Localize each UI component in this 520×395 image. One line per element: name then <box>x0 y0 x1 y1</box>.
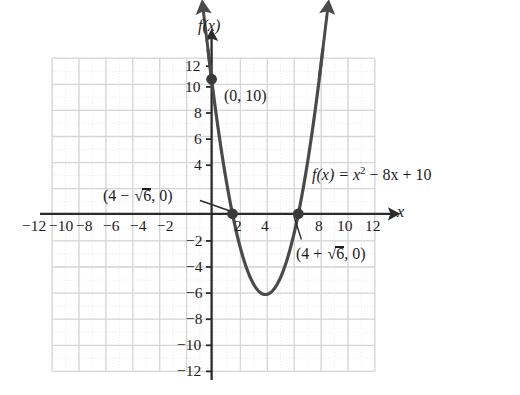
y-tick-8: 8 <box>194 105 202 121</box>
y-tick-6: 6 <box>194 131 202 147</box>
equation-prefix: f(x) = x <box>312 166 360 183</box>
x-tick-neg10: −10 <box>49 218 73 234</box>
label-right-root-pre: (4 + <box>296 245 326 262</box>
y-tick-4: 4 <box>194 157 202 173</box>
equation-label: f(x) = x2 − 8x + 10 <box>312 167 432 183</box>
x-tick-neg12: −12 <box>22 218 46 234</box>
graph-figure: f(x) x 12 10 8 6 4 −2 −4 −6 −8 −10 −12 −… <box>0 0 520 395</box>
label-right-root-post: , 0) <box>344 245 365 262</box>
parabola-right-arrow <box>320 8 328 76</box>
y-tick-neg10: −10 <box>177 337 201 353</box>
x-tick-8: 8 <box>315 218 323 234</box>
x-tick-4: 4 <box>261 218 269 234</box>
x-tick-neg8: −8 <box>76 218 93 234</box>
label-left-root-pre: (4 − <box>103 187 133 204</box>
x-tick-neg6: −6 <box>103 218 120 234</box>
label-right-root-radicand: 6 <box>336 245 344 262</box>
x-tick-10: 10 <box>337 218 353 234</box>
x-tick-neg2: −2 <box>157 218 174 234</box>
coordinate-plane-svg <box>0 0 520 395</box>
x-tick-2: 2 <box>234 218 242 234</box>
label-left-root: (4 − √6, 0) <box>103 188 173 204</box>
sqrt-icon-right: √6 <box>326 246 344 262</box>
label-y-intercept: (0, 10) <box>224 88 267 104</box>
y-tick-12: 12 <box>185 58 201 74</box>
label-left-root-radicand: 6 <box>143 187 151 204</box>
equation-suffix: − 8x + 10 <box>366 166 432 183</box>
label-left-root-post: , 0) <box>151 187 172 204</box>
y-tick-neg4: −4 <box>186 259 203 275</box>
point-right-root <box>293 208 304 219</box>
point-y-intercept <box>206 74 217 85</box>
x-tick-neg4: −4 <box>130 218 147 234</box>
sqrt-icon-left: √6 <box>133 188 151 204</box>
y-tick-neg6: −6 <box>186 285 203 301</box>
y-tick-10: 10 <box>185 79 201 95</box>
y-tick-neg8: −8 <box>186 311 203 327</box>
y-tick-neg12: −12 <box>177 363 201 379</box>
x-axis-label: x <box>397 204 404 220</box>
y-axis-label: f(x) <box>198 18 220 34</box>
label-right-root: (4 + √6, 0) <box>296 246 366 262</box>
y-tick-neg2: −2 <box>186 233 203 249</box>
x-tick-12: 12 <box>365 218 381 234</box>
